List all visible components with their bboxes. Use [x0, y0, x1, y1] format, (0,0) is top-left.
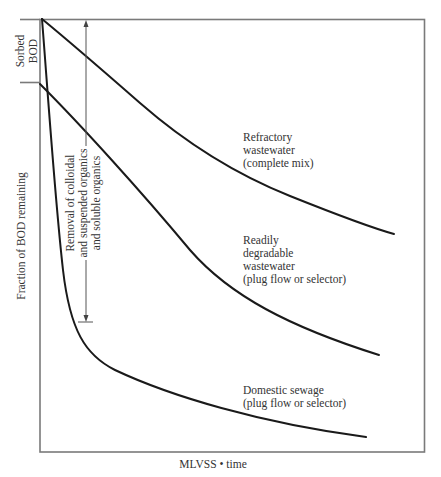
svg-text:and soluble organics: and soluble organics: [90, 155, 103, 250]
svg-text:and suspended organics: and suspended organics: [77, 148, 90, 258]
svg-text:degradable: degradable: [243, 247, 293, 260]
svg-text:wastewater: wastewater: [243, 260, 295, 272]
label-domestic-sewage: Domestic sewage (plug flow or selector): [243, 384, 346, 410]
svg-text:(complete mix): (complete mix): [243, 157, 314, 170]
arrow-head-down-icon: [84, 315, 89, 322]
svg-text:wastewater: wastewater: [243, 144, 295, 156]
svg-text:Sorbed: Sorbed: [14, 34, 26, 67]
bod-removal-chart: Removal of colloidal and suspended organ…: [0, 0, 441, 477]
svg-text:Domestic sewage: Domestic sewage: [243, 384, 324, 397]
label-refractory: Refractory wastewater (complete mix): [243, 131, 314, 170]
svg-text:Refractory: Refractory: [243, 131, 292, 144]
svg-text:(plug flow or selector): (plug flow or selector): [243, 273, 346, 286]
label-readily-degradable: Readily degradable wastewater (plug flow…: [243, 234, 346, 286]
svg-text:Readily: Readily: [243, 234, 279, 247]
removal-annotation: Removal of colloidal and suspended organ…: [64, 148, 103, 258]
arrow-head-up-icon: [84, 20, 89, 27]
y-axis-label: Fraction of BOD remaining: [15, 172, 28, 300]
sorbed-bod-label: Sorbed BOD: [14, 34, 39, 67]
x-axis-label: MLVSS • time: [179, 458, 247, 470]
svg-text:BOD: BOD: [27, 39, 39, 63]
svg-text:Removal of colloidal: Removal of colloidal: [64, 154, 76, 251]
svg-text:(plug flow or selector): (plug flow or selector): [243, 397, 346, 410]
